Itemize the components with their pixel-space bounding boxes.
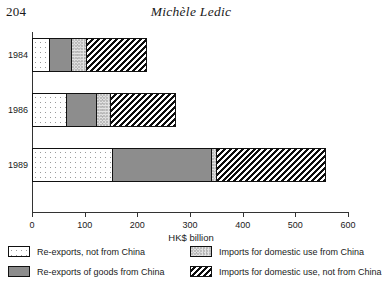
legend-label: Re-exports, not from China — [37, 247, 145, 257]
running-head: 204 Michèle Ledic — [0, 0, 382, 26]
x-tick-label: 500 — [280, 220, 310, 230]
x-tick — [32, 212, 33, 217]
legend-item: Re-exports, not from China — [8, 246, 145, 257]
bar-segment — [110, 94, 175, 126]
bar-segment — [71, 39, 87, 71]
bar-segment — [112, 149, 212, 181]
bar-segment — [33, 94, 66, 126]
x-tick — [243, 212, 244, 217]
bar-segment — [96, 94, 110, 126]
x-tick — [85, 212, 86, 217]
bar-segment — [33, 149, 112, 181]
legend-label: Imports for domestic use from China — [219, 247, 364, 257]
bar-segment — [216, 149, 325, 181]
legend-swatch — [8, 266, 30, 277]
x-tick — [137, 212, 138, 217]
legend-swatch — [8, 246, 30, 257]
x-tick — [190, 212, 191, 217]
bar-segment — [33, 39, 49, 71]
bar-segment — [49, 39, 71, 71]
legend-label: Imports for domestic use, not from China — [219, 267, 382, 277]
x-tick — [295, 212, 296, 217]
y-axis-label-1986: 1986 — [0, 105, 28, 115]
x-axis-title: HK$ billion — [0, 232, 382, 243]
legend-label: Re-exports of goods from China — [37, 267, 165, 277]
x-tick — [348, 212, 349, 217]
chart-legend: Re-exports, not from ChinaRe-exports of … — [0, 244, 382, 292]
stacked-bar-chart: 0100200300400500600 198419861989 HK$ bil… — [0, 26, 382, 236]
chapter-author-title: Michèle Ledic — [0, 4, 382, 20]
bar-segment — [86, 39, 146, 71]
legend-swatch — [190, 266, 212, 277]
bar-segment — [66, 94, 96, 126]
bar-1986 — [32, 93, 176, 127]
x-tick-label: 0 — [17, 220, 47, 230]
legend-item: Re-exports of goods from China — [8, 266, 165, 277]
y-axis-label-1984: 1984 — [0, 50, 28, 60]
legend-item: Imports for domestic use from China — [190, 246, 364, 257]
bar-1989 — [32, 148, 326, 182]
legend-swatch — [190, 246, 212, 257]
y-axis-label-1989: 1989 — [0, 160, 28, 170]
bar-1984 — [32, 38, 147, 72]
x-tick-label: 600 — [333, 220, 363, 230]
x-tick-label: 400 — [228, 220, 258, 230]
x-tick-label: 200 — [122, 220, 152, 230]
x-tick-label: 300 — [175, 220, 205, 230]
legend-item: Imports for domestic use, not from China — [190, 266, 382, 277]
x-tick-label: 100 — [70, 220, 100, 230]
